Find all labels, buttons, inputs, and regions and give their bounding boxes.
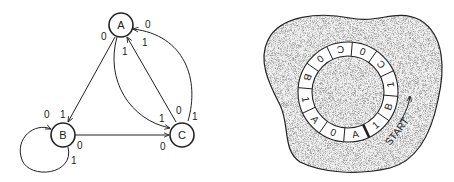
edge-c-a-tail-label: 0	[176, 105, 182, 116]
node-c: C	[170, 123, 194, 147]
edge-c-a-outer-head-label: 0	[145, 19, 151, 30]
node-a: A	[109, 13, 133, 37]
edge-c-a-head-label: 1	[142, 37, 148, 48]
node-c-label: C	[178, 129, 186, 141]
edge-b-loop-head-label: 0	[44, 109, 50, 120]
node-b: B	[51, 123, 75, 147]
node-a-label: A	[117, 19, 125, 31]
edge-b-c-tail-label: 0	[77, 140, 83, 151]
edge-a-c-head-label: 1	[159, 113, 165, 124]
state-graph: A B C 0 1 1 1 0 1 1 0 0 0 1 0	[20, 13, 198, 172]
node-b-label: B	[59, 129, 66, 141]
diagram-canvas: A B C 0 1 1 1 0 1 1 0 0 0 1 0 1B1C0C0B1	[0, 0, 454, 182]
edge-a-b-tail-label: 0	[101, 31, 107, 42]
edge-a-b-head-label: 1	[60, 109, 66, 120]
edge-b-c-head-label: 0	[160, 141, 166, 152]
edge-c-a-outer-tail-label: 1	[192, 111, 198, 122]
ring-tape-figure: 1B1C0C0B1A0A START	[264, 15, 442, 172]
edge-b-loop-tail-label: 1	[71, 155, 77, 166]
edge-a-to-b	[68, 37, 115, 122]
edge-a-c-tail-label: 1	[122, 46, 128, 57]
ring-inner-stipple	[313, 57, 384, 128]
